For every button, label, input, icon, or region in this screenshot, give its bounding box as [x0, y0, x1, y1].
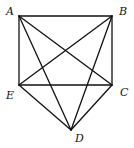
edge-ed: [19, 85, 71, 130]
edge-ad: [19, 16, 71, 130]
vertex-label-b: B: [118, 5, 127, 18]
vertex-label-d: D: [74, 132, 84, 145]
vertex-label-c: C: [120, 86, 129, 99]
vertex-label-a: A: [5, 5, 14, 18]
vertex-label-e: E: [5, 89, 14, 102]
edges-group: [19, 16, 112, 130]
edge-bd: [71, 16, 112, 130]
edge-cd: [71, 85, 112, 130]
geometry-diagram: A B C D E: [0, 0, 134, 148]
